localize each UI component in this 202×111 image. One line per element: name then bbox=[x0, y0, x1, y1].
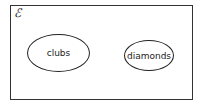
set-diamonds: diamonds bbox=[124, 40, 174, 71]
set-diamonds-label: diamonds bbox=[127, 51, 171, 61]
universal-set-symbol: ℰ bbox=[14, 7, 21, 19]
set-clubs: clubs bbox=[27, 34, 90, 72]
set-clubs-label: clubs bbox=[47, 48, 71, 58]
